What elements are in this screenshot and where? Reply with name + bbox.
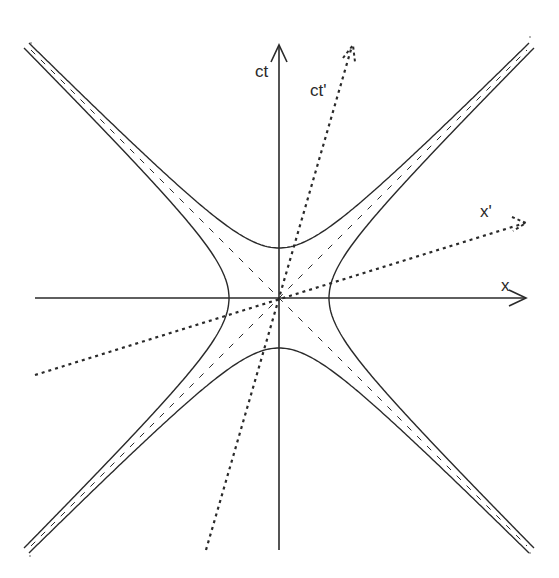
x-prime-axis-label: x' (480, 202, 492, 221)
corner-mark-bottom-left (29, 555, 31, 557)
corner-mark-bottom-right (529, 552, 531, 554)
corner-mark-top-left (30, 42, 32, 44)
x-axis-label: x (501, 276, 510, 295)
corner-mark-top-right (529, 36, 531, 38)
spacetime-diagram: ct ct' x' x (0, 0, 559, 578)
ct-prime-axis-arrowhead-icon (343, 45, 355, 62)
ct-prime-axis-label: ct' (310, 81, 326, 100)
ct-axis-label: ct (255, 62, 269, 81)
